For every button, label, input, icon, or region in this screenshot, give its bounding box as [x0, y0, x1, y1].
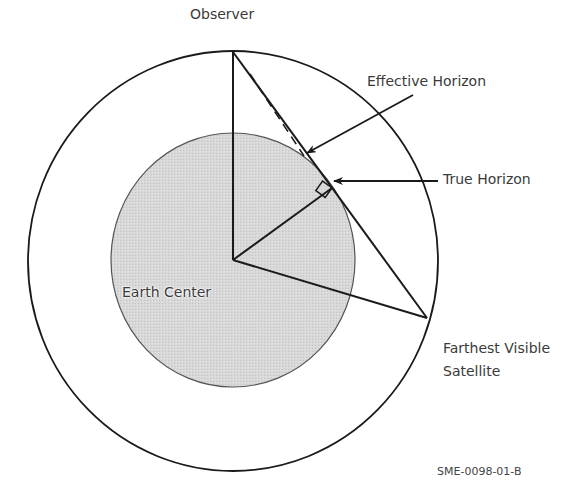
effective-horizon-label: Effective Horizon — [367, 73, 486, 89]
horizon-diagram — [0, 0, 577, 496]
farthest-satellite-label-line2: Satellite — [443, 363, 500, 379]
earth-center-label: Earth Center — [122, 284, 211, 300]
observer-label: Observer — [190, 6, 254, 22]
true-horizon-label: True Horizon — [443, 171, 531, 187]
effective-horizon-arrow — [307, 95, 413, 153]
farthest-satellite-label-line1: Farthest Visible — [443, 340, 550, 356]
figure-id-label: SME-0098-01-B — [437, 464, 521, 480]
